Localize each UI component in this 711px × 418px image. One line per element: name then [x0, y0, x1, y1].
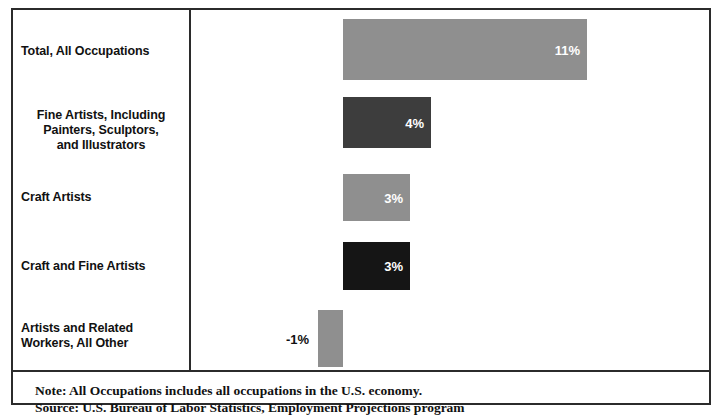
bar-value-label: 4% — [405, 116, 424, 129]
footnote-source: Source: U.S. Bureau of Labor Statistics,… — [35, 399, 709, 416]
bar-value-label: 3% — [384, 260, 403, 273]
bar-craft-and-fine-artists[interactable]: 3% — [343, 242, 410, 290]
bars-layer: 11% 4% 3% 3% -1% — [13, 10, 709, 370]
bar-value-label: -1% — [286, 332, 309, 345]
bar-craft-artists[interactable]: 3% — [343, 174, 410, 221]
bar-fine-artists[interactable]: 4% — [343, 97, 431, 148]
bar-artists-and-related-workers[interactable]: -1% — [318, 310, 343, 367]
footnote-note: Note: All Occupations includes all occup… — [35, 382, 709, 399]
footnotes: Note: All Occupations includes all occup… — [13, 372, 709, 416]
chart-figure-frame: Total, All Occupations Fine Artists, Inc… — [11, 8, 711, 405]
bar-total-all-occupations[interactable]: 11% — [343, 19, 587, 80]
bar-value-label: 11% — [555, 43, 580, 56]
bar-value-label: 3% — [384, 191, 403, 204]
plot-area: Total, All Occupations Fine Artists, Inc… — [13, 10, 709, 370]
